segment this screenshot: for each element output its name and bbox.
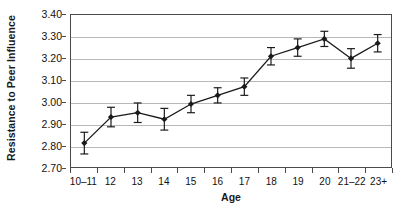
y-axis-tick-mark <box>62 36 66 37</box>
x-axis-tick-mark <box>177 168 178 173</box>
x-axis-tick-label: 19 <box>293 176 304 187</box>
y-axis-tick-label: 3.10 <box>42 74 62 86</box>
x-axis-tick-labels: 10–1112131415161718192021–2223+ <box>70 176 392 190</box>
y-axis-tick-labels: 3.403.303.203.103.002.902.802.70 <box>22 0 66 176</box>
x-axis-tick-label: 23+ <box>370 176 387 187</box>
data-point-marker <box>295 45 301 51</box>
x-axis-tick-label: 18 <box>266 176 277 187</box>
y-axis-tick-mark <box>62 58 66 59</box>
chart-figure: Resistance to Peer Influence 3.403.303.2… <box>0 0 418 211</box>
x-axis-tick-mark <box>151 168 152 173</box>
x-axis-tick-label: 20 <box>319 176 330 187</box>
line-series-resistance-to-peer-influence <box>71 15 391 167</box>
x-axis-tick-label: 12 <box>105 176 116 187</box>
x-axis-tick-label: 10–11 <box>70 176 97 187</box>
y-axis-tick-label: 2.70 <box>42 162 62 174</box>
x-axis-tick-mark <box>204 168 205 173</box>
data-series-layer <box>71 15 391 167</box>
y-axis-title: Resistance to Peer Influence <box>0 0 22 176</box>
y-axis-tick-label: 2.80 <box>42 140 62 152</box>
x-axis-title: Age <box>70 191 392 203</box>
x-axis-tick-marks <box>70 168 392 176</box>
x-axis-tick-label: 13 <box>132 176 143 187</box>
x-axis-tick-mark <box>258 168 259 173</box>
x-axis-tick-label: 14 <box>158 176 169 187</box>
y-axis-tick-label: 3.20 <box>42 52 62 64</box>
x-axis-tick-mark <box>285 168 286 173</box>
y-axis-tick-label: 3.30 <box>42 30 62 42</box>
x-axis-tick-label: 17 <box>239 176 250 187</box>
data-point-marker <box>215 92 221 98</box>
x-axis-tick-mark <box>365 168 366 173</box>
y-axis-tick-label: 2.90 <box>42 118 62 130</box>
series-line <box>84 39 377 143</box>
y-axis-title-text: Resistance to Peer Influence <box>5 15 17 161</box>
x-axis-tick-label: 21–22 <box>338 176 366 187</box>
x-axis-tick-mark <box>124 168 125 173</box>
x-axis-tick-mark <box>70 168 71 173</box>
plot-area <box>70 14 392 168</box>
data-point-marker <box>188 101 194 107</box>
x-axis-tick-mark <box>231 168 232 173</box>
y-axis-tick-mark <box>62 14 66 15</box>
data-point-marker <box>375 40 381 46</box>
x-axis-tick-mark <box>97 168 98 173</box>
y-axis-tick-mark <box>62 80 66 81</box>
y-axis-tick-label: 3.40 <box>42 8 62 20</box>
x-axis-tick-mark <box>312 168 313 173</box>
data-point-marker <box>135 110 141 116</box>
y-axis-tick-label: 3.00 <box>42 96 62 108</box>
y-axis-tick-mark <box>62 102 66 103</box>
x-axis-tick-label: 16 <box>212 176 223 187</box>
y-axis-tick-mark <box>62 146 66 147</box>
data-point-marker <box>161 116 167 122</box>
x-axis-tick-mark <box>338 168 339 173</box>
x-axis-tick-label: 15 <box>185 176 196 187</box>
y-axis-tick-mark <box>62 124 66 125</box>
x-axis-tick-mark <box>392 168 393 173</box>
y-axis-tick-mark <box>62 168 66 169</box>
